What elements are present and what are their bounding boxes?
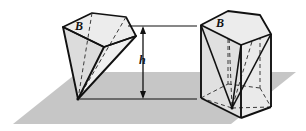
- pyramid-apex-point: [76, 97, 79, 100]
- height-label: h: [139, 54, 146, 66]
- prism-face-front-right: [241, 34, 271, 118]
- dimension-arrowhead-up-icon: [140, 26, 146, 34]
- inner-pyramid-apex-point: [231, 107, 234, 110]
- base-label-left: B: [75, 20, 83, 32]
- geometry-figure: B B h: [0, 0, 306, 131]
- geometry-illustration-svg: [0, 0, 306, 131]
- right-pentagonal-prism: [201, 11, 271, 118]
- base-label-right: B: [216, 17, 224, 29]
